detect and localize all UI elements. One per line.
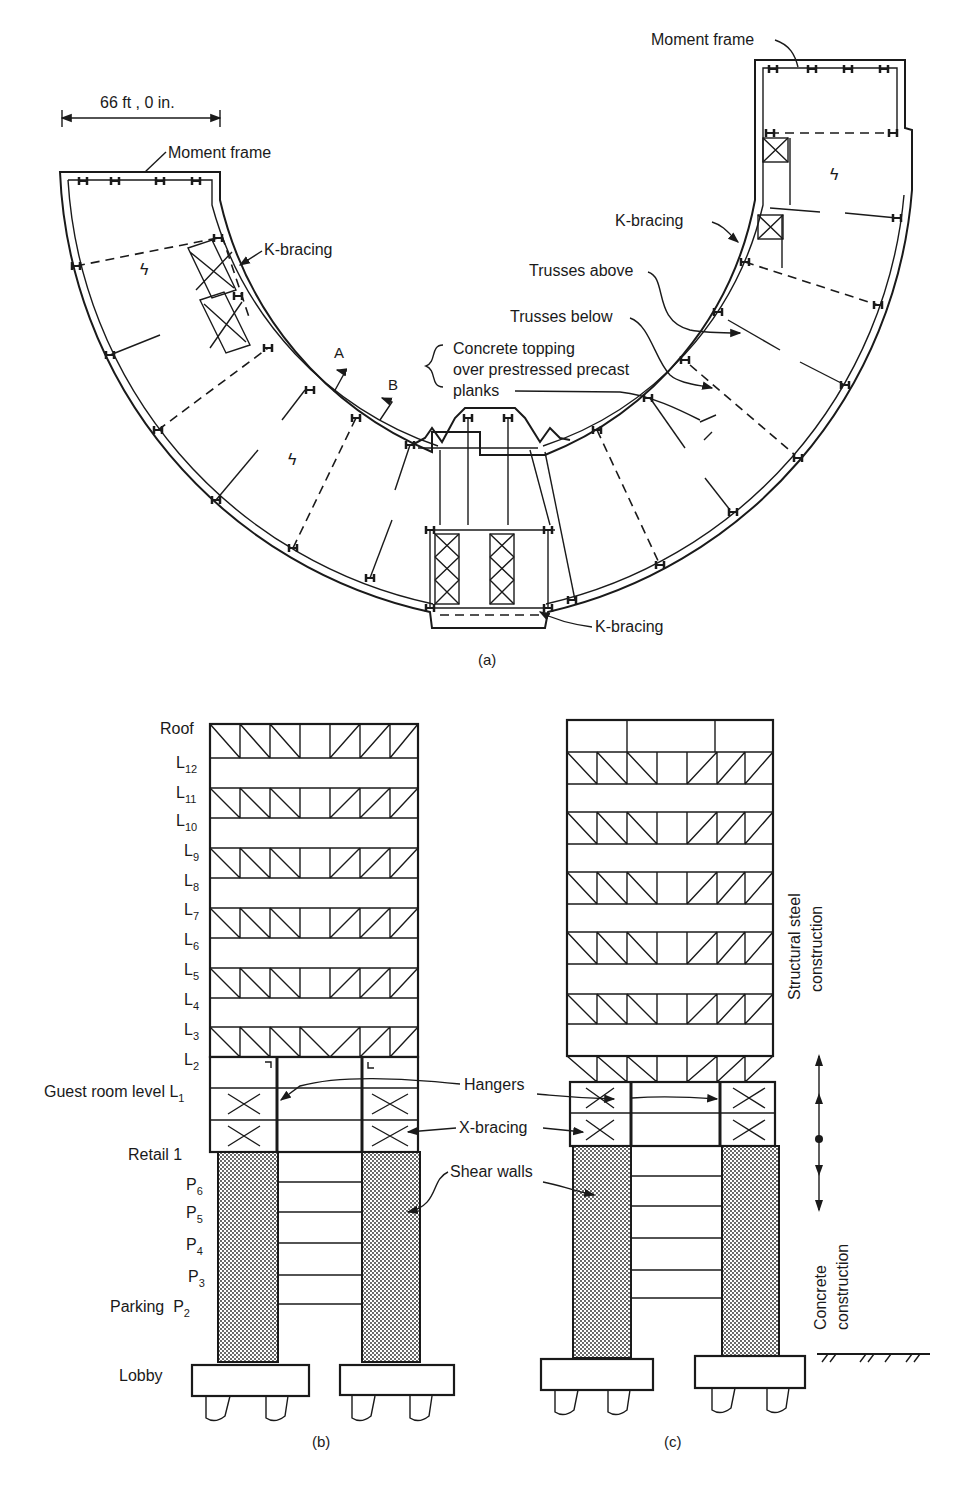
svg-text:L12: L12 xyxy=(176,754,197,775)
svg-text:L2: L2 xyxy=(184,1051,199,1072)
label-k-bracing-left: K-bracing xyxy=(264,241,332,258)
label-shear-walls: Shear walls xyxy=(450,1163,533,1180)
dimension-label: 66 ft , 0 in. xyxy=(100,94,175,111)
plan-view: 66 ft , 0 in. xyxy=(60,31,912,770)
svg-text:P5: P5 xyxy=(186,1204,203,1225)
label-x-bracing: X-bracing xyxy=(459,1119,527,1136)
label-steel-line2: construction xyxy=(808,906,825,992)
svg-text:P4: P4 xyxy=(186,1236,203,1257)
zigzag-arrow-icon: ϟ xyxy=(288,451,297,468)
arrow-down-icon xyxy=(815,1200,823,1212)
svg-text:Retail 1: Retail 1 xyxy=(128,1146,182,1163)
caption-b: (b) xyxy=(312,1433,330,1450)
svg-text:P6: P6 xyxy=(186,1176,203,1197)
svg-text:L9: L9 xyxy=(184,842,199,863)
svg-text:Lobby: Lobby xyxy=(119,1367,163,1384)
label-moment-frame-right: Moment frame xyxy=(651,31,754,48)
zigzag-arrow-icon: ϟ xyxy=(140,261,149,278)
moment-frame-right xyxy=(769,65,888,73)
label-concrete-line2: over prestressed precast xyxy=(453,361,630,378)
caption-c: (c) xyxy=(664,1433,682,1450)
shear-wall-left-c xyxy=(573,1146,631,1358)
svg-text:L7: L7 xyxy=(184,901,199,922)
k-bracing-left-boxes xyxy=(188,236,250,353)
shear-wall-left-b xyxy=(218,1152,278,1362)
section-markers: A B xyxy=(334,344,398,420)
label-moment-frame-left: Moment frame xyxy=(168,144,271,161)
label-hangers: Hangers xyxy=(464,1076,524,1093)
divider-dot-icon xyxy=(815,1135,823,1143)
svg-text:P3: P3 xyxy=(188,1268,205,1289)
svg-text:L6: L6 xyxy=(184,931,199,952)
moment-frame-left xyxy=(79,177,200,185)
structural-drawing: 66 ft , 0 in. xyxy=(0,0,973,1490)
left-framing-lines: ϟ ϟ xyxy=(72,234,414,582)
svg-text:Parking P2: Parking P2 xyxy=(110,1298,190,1319)
arrow-down-icon xyxy=(815,1165,823,1176)
plan-labels: Moment frame Moment frame K-bracing K-br… xyxy=(145,31,798,668)
svg-text:L10: L10 xyxy=(176,812,197,833)
brace-icon xyxy=(426,345,443,387)
label-concrete-line1: Concrete xyxy=(812,1265,829,1330)
label-concrete-line2: construction xyxy=(834,1244,851,1330)
label-trusses-below: Trusses below xyxy=(510,308,613,325)
svg-text:L3: L3 xyxy=(184,1021,199,1042)
level-labels: Roof L12 L11 L10 L9 L8 L7 L6 L5 L4 L3 L2… xyxy=(44,720,205,1384)
label-steel-line1: Structural steel xyxy=(786,893,803,1000)
shear-wall-right-b xyxy=(362,1152,420,1362)
construction-zones: Structural steel construction Concrete c… xyxy=(786,893,851,1330)
elevation-b: Roof L12 L11 L10 L9 L8 L7 L6 L5 L4 L3 L2… xyxy=(44,720,454,1450)
dimension-66ft: 66 ft , 0 in. xyxy=(62,94,220,127)
label-trusses-above: Trusses above xyxy=(529,262,633,279)
zigzag-arrow-icon: ϟ xyxy=(830,166,839,183)
svg-text:L5: L5 xyxy=(184,961,199,982)
arrow-up-icon xyxy=(815,1054,823,1066)
label-concrete-line3: planks xyxy=(453,382,499,399)
label-k-bracing-bottom: K-bracing xyxy=(595,618,663,635)
label-concrete-line1: Concrete topping xyxy=(453,340,575,357)
arrow-up-icon xyxy=(815,1093,823,1104)
lower-b xyxy=(192,1057,454,1421)
svg-text:Roof: Roof xyxy=(160,720,194,737)
svg-text:A: A xyxy=(334,344,344,361)
shear-wall-right-c xyxy=(722,1146,779,1358)
label-k-bracing-right: K-bracing xyxy=(615,212,683,229)
svg-text:L4: L4 xyxy=(184,991,199,1012)
lower-c xyxy=(541,1082,930,1415)
svg-text:B: B xyxy=(388,376,398,393)
svg-text:Guest room level L1: Guest room level L1 xyxy=(44,1083,184,1104)
central-core xyxy=(412,408,576,615)
svg-text:L8: L8 xyxy=(184,872,199,893)
elevation-c: (c) xyxy=(541,720,930,1450)
caption-a: (a) xyxy=(478,651,496,668)
svg-text:L11: L11 xyxy=(176,784,196,805)
